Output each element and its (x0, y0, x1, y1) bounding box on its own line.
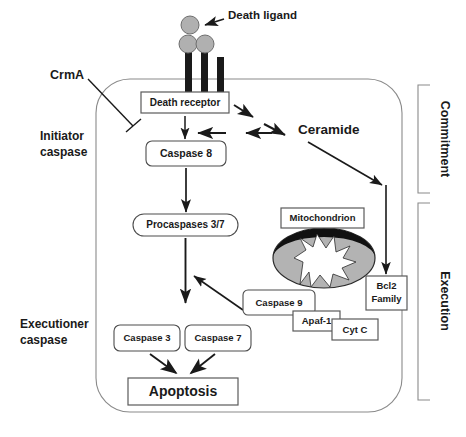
initiator-caspase-label-line1: Initiator (40, 129, 84, 143)
bracket-commitment-label: Commitment (438, 101, 452, 178)
bracket-execution-label: Execution (438, 271, 452, 331)
arrow-receptor-to-ceramide-1 (234, 105, 253, 117)
node-apaf-1-label: Apaf-1 (302, 315, 332, 326)
node-cyt-c-label: Cyt C (343, 324, 368, 335)
bracket-commitment: Commitment (418, 85, 452, 193)
arrow-caspase3-to-apoptosis (150, 354, 176, 373)
arrow-caspase7-to-apoptosis (191, 354, 215, 373)
node-caspase-7[interactable]: Caspase 7 (185, 325, 251, 351)
node-mitochondrion[interactable]: Mitochondrion (281, 208, 364, 228)
mitochondrion-icon (273, 228, 375, 288)
node-death-receptor[interactable]: Death receptor (141, 92, 229, 113)
arrow-caspase9-to-procaspases (194, 276, 243, 310)
node-bcl2-family-label-line2: Family (371, 293, 402, 304)
ceramide-label: Ceramide (298, 122, 360, 137)
bound-ligand-icon-1 (179, 35, 197, 53)
node-caspase-8[interactable]: Caspase 8 (146, 141, 226, 166)
node-apoptosis[interactable]: Apoptosis (128, 378, 238, 405)
node-mitochondrion-label: Mitochondrion (290, 212, 356, 223)
node-caspase-9-label: Caspase 9 (255, 297, 302, 308)
node-procaspases-3-7[interactable]: Procaspases 3/7 (133, 214, 238, 236)
executioner-caspase-label-line1: Executioner (20, 317, 89, 331)
ligand-group (179, 16, 214, 53)
bound-ligand-icon-2 (196, 35, 214, 53)
node-caspase-7-label: Caspase 7 (194, 332, 241, 343)
receptor-stalk-3 (217, 57, 224, 94)
node-bcl2-family[interactable]: Bcl2 Family (366, 276, 407, 310)
initiator-caspase-label-line2: caspase (40, 145, 88, 159)
death-ligand-label: Death ligand (228, 9, 297, 21)
node-caspase-3[interactable]: Caspase 3 (114, 325, 180, 351)
executioner-caspase-label-line2: caspase (20, 333, 68, 347)
death-ligand-pointer-arrow (205, 19, 224, 25)
unbound-ligand-icon (181, 16, 199, 34)
node-caspase-8-label: Caspase 8 (160, 147, 212, 159)
node-procaspases-3-7-label: Procaspases 3/7 (146, 219, 225, 230)
node-caspase-3-label: Caspase 3 (123, 332, 170, 343)
bracket-execution: Execution (418, 203, 452, 400)
arrow-ceramide-to-bcl2 (308, 142, 382, 185)
node-bcl2-family-label-line1: Bcl2 (376, 280, 396, 291)
crma-label: CrmA (50, 68, 84, 82)
pathway-diagram: Death ligand CrmA Initiator caspase Exec… (0, 0, 466, 437)
node-apoptosis-label: Apoptosis (149, 383, 218, 399)
node-cyt-c[interactable]: Cyt C (332, 319, 378, 340)
node-death-receptor-label: Death receptor (150, 97, 221, 108)
